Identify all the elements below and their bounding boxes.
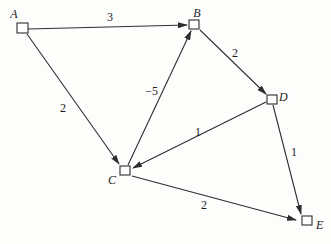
edge-C-E-weight: 2 (201, 198, 207, 212)
node-A-label: A (9, 7, 18, 21)
edge-D-E-line (273, 105, 301, 214)
edge-C-B-line (128, 31, 191, 165)
node-D-label: D (278, 90, 288, 104)
node-E-label: E (315, 218, 324, 232)
node-D-box (267, 95, 277, 104)
edge-A-C-line (27, 34, 119, 164)
node-C-box (120, 166, 130, 175)
edge-D-E-weight: 1 (291, 145, 297, 159)
edge-A-B-weight: 3 (107, 10, 113, 24)
edge-C-B-weight: −5 (145, 84, 158, 98)
edge-C-E-line (132, 176, 296, 220)
edge-A-C-weight: 2 (60, 101, 66, 115)
node-B-label: B (193, 6, 201, 20)
graph-diagram: 32−52112ABCDE (0, 0, 331, 244)
edge-A-B-line (28, 25, 187, 29)
node-A-box (17, 23, 28, 33)
edge-D-C-weight: 1 (195, 125, 201, 139)
node-B-box (189, 20, 199, 29)
edge-B-D-weight: 2 (232, 46, 238, 60)
node-C-label: C (108, 173, 117, 187)
graph-svg: 32−52112ABCDE (0, 0, 331, 244)
edge-B-D-line (200, 30, 266, 94)
node-E-box (302, 216, 312, 225)
